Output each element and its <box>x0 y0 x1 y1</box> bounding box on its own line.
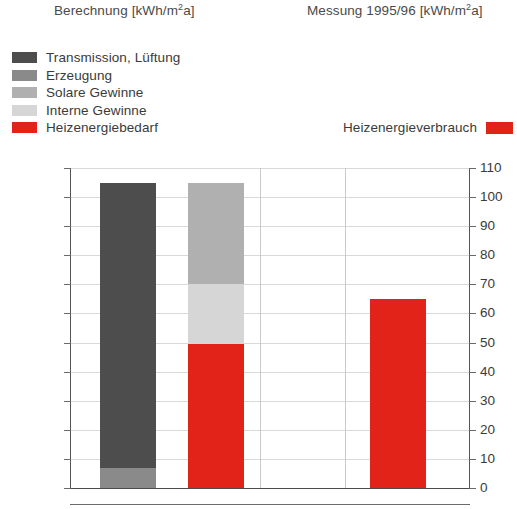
panel-title-messung-tail: a] <box>471 3 482 18</box>
bar-berechnung-gewinne[interactable] <box>188 183 244 488</box>
y-axis-label-right: 40 <box>480 364 517 379</box>
legend-berechnung: Transmission, Lüftung Erzeugung Solare G… <box>12 49 180 137</box>
y-axis-label-right: 60 <box>480 305 517 320</box>
y-tick-left <box>64 343 71 344</box>
legend-item: Transmission, Lüftung <box>12 49 180 67</box>
y-axis-label-right: 10 <box>480 451 517 466</box>
y-axis-label-right: 20 <box>480 422 517 437</box>
y-tick-left <box>64 313 71 314</box>
y-axis-label-right: 110 <box>480 160 517 175</box>
y-tick-right <box>469 430 476 431</box>
legend-swatch-transmission-lueftung <box>12 52 37 63</box>
plot-area <box>70 168 470 488</box>
y-tick-left <box>64 168 71 169</box>
bar-berechnung-verluste[interactable] <box>100 183 156 488</box>
legend-item: Interne Gewinne <box>12 102 180 120</box>
y-axis-label-right: 70 <box>480 276 517 291</box>
legend-swatch-erzeugung <box>12 70 37 81</box>
gridline <box>70 168 470 169</box>
legend-item: Solare Gewinne <box>12 84 180 102</box>
y-tick-left <box>64 226 71 227</box>
y-axis-label-right: 30 <box>480 393 517 408</box>
y-axis-label-right: 50 <box>480 335 517 350</box>
y-axis-label-right: 90 <box>480 218 517 233</box>
panel-title-messung-text: Messung 1995/96 [kWh/m <box>307 3 466 18</box>
legend-swatch-heizenergieverbrauch <box>486 122 513 134</box>
legend-swatch-interne-gewinne <box>12 105 37 116</box>
y-tick-left <box>64 197 71 198</box>
legend-label-transmission-lueftung: Transmission, Lüftung <box>46 50 180 65</box>
y-axis-label-right: 80 <box>480 247 517 262</box>
bar-segment-interne-gewinne[interactable] <box>188 284 244 344</box>
y-tick-right <box>469 343 476 344</box>
y-tick-left <box>64 459 71 460</box>
bar-segment-transmission-l-ftung[interactable] <box>100 183 156 468</box>
y-tick-left <box>64 430 71 431</box>
y-tick-right <box>469 459 476 460</box>
legend-swatch-solare-gewinne <box>12 87 37 98</box>
y-tick-right <box>469 313 476 314</box>
bar-segment-erzeugung[interactable] <box>100 468 156 488</box>
panel-divider-2 <box>345 168 346 488</box>
x-axis-outer-rule <box>70 504 470 505</box>
y-tick-left <box>64 372 71 373</box>
bar-messung-verbrauch[interactable] <box>370 299 426 488</box>
y-tick-right <box>469 226 476 227</box>
y-axis-right <box>469 168 470 488</box>
y-tick-right <box>469 255 476 256</box>
bar-segment-solare-gewinne[interactable] <box>188 183 244 285</box>
panel-title-berechnung: Berechnung [kWh/m2a] <box>54 3 195 18</box>
y-tick-right <box>469 401 476 402</box>
y-axis-label-right: 0 <box>480 480 517 495</box>
y-tick-left <box>64 255 71 256</box>
y-tick-left <box>64 488 71 489</box>
y-tick-right <box>469 168 476 169</box>
y-tick-right <box>469 284 476 285</box>
panel-title-messung: Messung 1995/96 [kWh/m2a] <box>307 3 483 18</box>
chart-figure: Berechnung [kWh/m2a] Messung 1995/96 [kW… <box>0 0 517 509</box>
y-axis-left <box>70 168 71 488</box>
legend-label-erzeugung: Erzeugung <box>46 68 112 83</box>
y-tick-right <box>469 372 476 373</box>
bar-segment-heizenergiebedarf[interactable] <box>188 344 244 488</box>
legend-label-solare-gewinne: Solare Gewinne <box>46 85 143 100</box>
legend-label-heizenergiebedarf: Heizenergiebedarf <box>46 120 158 135</box>
legend-label-interne-gewinne: Interne Gewinne <box>46 103 147 118</box>
legend-item: Heizenergiebedarf <box>12 119 180 137</box>
x-axis-baseline <box>70 488 470 489</box>
chart-area: 1101101001009090808070706060505040403030… <box>0 152 517 509</box>
y-axis-label-right: 100 <box>480 189 517 204</box>
bar-segment-heizenergieverbrauch[interactable] <box>370 299 426 488</box>
legend-swatch-heizenergiebedarf <box>12 122 37 133</box>
legend-label-heizenergieverbrauch: Heizenergieverbrauch <box>343 120 477 135</box>
legend-item: Erzeugung <box>12 67 180 85</box>
legend-messung: Heizenergieverbrauch <box>343 120 513 135</box>
y-tick-left <box>64 401 71 402</box>
panel-title-berechnung-tail: a] <box>183 3 194 18</box>
y-tick-right <box>469 488 476 489</box>
panel-divider-1 <box>260 168 261 488</box>
panel-title-berechnung-text: Berechnung [kWh/m <box>54 3 178 18</box>
y-tick-right <box>469 197 476 198</box>
y-tick-left <box>64 284 71 285</box>
